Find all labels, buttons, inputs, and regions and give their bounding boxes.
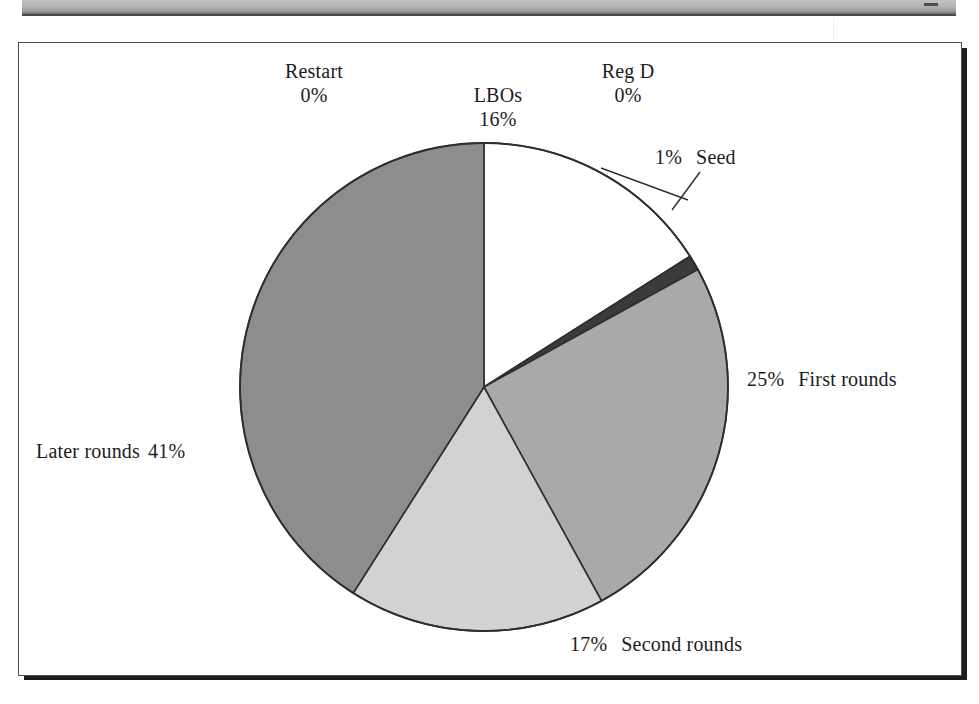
pie-label-second-rounds-name: Second rounds: [621, 633, 742, 655]
scanned-page-header-bar: [22, 0, 956, 16]
pie-label-reg-d: Reg D 0%: [568, 60, 688, 107]
pie-label-restart: Restart 0%: [254, 60, 374, 107]
pie-label-first-rounds-value: 25%: [747, 368, 784, 390]
pie-label-reg-d-value: 0%: [568, 84, 688, 108]
header-bar-tick-mark: [924, 3, 938, 6]
pie-label-first-rounds-name: First rounds: [798, 368, 897, 390]
pie-label-later-rounds: Later rounds41%: [36, 440, 185, 464]
frame-drop-shadow-right: [962, 48, 967, 678]
pie-label-restart-value: 0%: [254, 84, 374, 108]
pie-label-seed-name: Seed: [696, 146, 736, 168]
pie-label-later-rounds-name: Later rounds: [36, 440, 140, 462]
pie-label-lbos-value: 16%: [438, 108, 558, 132]
pie-label-restart-name: Restart: [254, 60, 374, 84]
pie-label-lbos-name: LBOs: [438, 84, 558, 108]
pie-label-second-rounds-value: 17%: [570, 633, 607, 655]
chart-frame: [18, 42, 962, 676]
pie-label-second-rounds: 17%Second rounds: [570, 633, 742, 657]
pie-label-lbos: LBOs 16%: [438, 84, 558, 131]
pie-label-seed: 1%Seed: [655, 146, 736, 170]
pie-label-reg-d-name: Reg D: [568, 60, 688, 84]
pie-label-seed-value: 1%: [655, 146, 682, 168]
pie-label-first-rounds: 25%First rounds: [747, 368, 897, 392]
pie-label-later-rounds-value: 41%: [148, 440, 185, 462]
